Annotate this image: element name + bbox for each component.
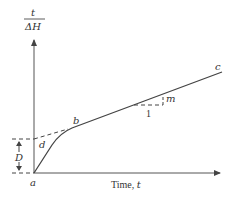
data-curve: [34, 72, 222, 173]
slope-run-label: 1: [146, 108, 151, 119]
x-axis-label-var: t: [137, 179, 142, 190]
x-axis-label-text: Time,: [111, 179, 137, 190]
point-b-label: b: [73, 115, 79, 126]
point-a-label: a: [30, 177, 36, 188]
x-axis-label: Time, t: [111, 179, 142, 190]
y-axis-label-denominator: ΔH: [24, 21, 41, 32]
slope-label: m: [166, 93, 175, 104]
point-c-label: c: [215, 61, 221, 72]
lag-time-diagram: t ΔH D m 1 a b c d Time, t: [0, 0, 235, 197]
point-d-label: d: [39, 139, 45, 150]
intercept-label: D: [14, 152, 23, 163]
y-axis-label-numerator: t: [31, 7, 36, 18]
